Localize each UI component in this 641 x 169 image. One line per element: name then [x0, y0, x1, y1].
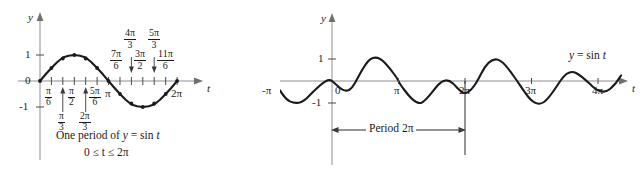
left-xtick-5pi3-den: 3: [148, 40, 160, 51]
left-graph-panel: y t 1 0 -1 π 6 π 2 5π 6 π 2π: [0, 0, 280, 169]
left-xtick-7pi6-num: 7π: [110, 49, 122, 61]
right-ytick-label-neg1: -1: [312, 97, 321, 108]
left-xtick-label-5pi-over-3: 5π 3: [148, 28, 160, 50]
left-xtick-4pi3-den: 3: [124, 40, 136, 51]
left-caption-line1: One period of y = sin t: [56, 129, 160, 141]
right-ytick-label-1: 1: [318, 53, 324, 64]
left-y-axis-arrowhead: [37, 12, 44, 21]
right-xtick-label-neg-pi: -π: [262, 85, 271, 96]
right-curve-function-label: y = sin t: [569, 50, 606, 62]
left-xtick-label-11pi-over-6: 11π 6: [157, 49, 174, 71]
right-xtick-label-4pi: 4π: [592, 85, 603, 96]
left-xtick-pi2-den: 2: [68, 98, 75, 108]
left-xtick-5pi6-den: 6: [89, 98, 101, 108]
right-y-axis-arrowhead: [329, 13, 336, 22]
left-xtick-11pi6-den: 6: [157, 61, 174, 72]
left-xtick-label-pi-over-2: π 2: [68, 87, 75, 108]
left-ytick-label-0: 0: [25, 75, 31, 86]
right-t-axis-label: t: [632, 83, 635, 94]
left-caption-line2: 0 ≤ t ≤ 2π: [84, 146, 129, 158]
right-xtick-label-3pi: 3π: [525, 85, 536, 96]
left-xtick-3pi2-num: 3π: [134, 49, 146, 61]
left-xtick-4pi3-num: 4π: [124, 28, 136, 40]
left-ytick-label-neg1: -1: [19, 101, 28, 112]
left-xtick-label-3pi-over-2: 3π 2: [134, 49, 146, 71]
left-xtick-5pi3-num: 5π: [148, 28, 160, 40]
right-xtick-label-2pi: 2π: [459, 85, 470, 96]
left-xtick-7pi6-den: 6: [110, 61, 122, 72]
right-period-annotation: Period 2π: [366, 123, 416, 135]
left-lower-leader-pi-over-3: [60, 87, 65, 112]
left-xtick-pi6-den: 6: [45, 98, 52, 108]
left-y-axis-label: y: [28, 12, 33, 23]
left-caption-eq: = sin: [128, 129, 157, 141]
left-t-axis-label: t: [207, 83, 210, 94]
right-y-axis-label: y: [321, 13, 326, 24]
left-xtick-label-pi-over-6: π 6: [45, 87, 52, 108]
left-xtick-11pi6-num: 11π: [157, 49, 174, 61]
right-curve-label-t: t: [603, 49, 606, 61]
right-xtick-label-0: 0: [335, 85, 341, 96]
right-xtick-label-pi: π: [394, 85, 400, 96]
left-graph-svg: [0, 0, 280, 169]
left-xtick-label-5pi-over-6: 5π 6: [89, 87, 101, 108]
right-curve-label-eq: = sin: [574, 49, 603, 61]
right-graph-panel: y t 1 -1 -π 0 π 2π 3π 4π y = sin t Perio…: [280, 0, 641, 169]
left-caption-t: t: [156, 129, 159, 141]
left-xtick-label-2pi: 2π: [171, 88, 182, 99]
left-xtick-3pi2-den: 2: [134, 61, 146, 72]
right-t-axis-arrowhead: [619, 78, 628, 85]
left-xtick-label-7pi-over-6: 7π 6: [110, 49, 122, 71]
left-lower-leader-2pi-over-3: [83, 87, 88, 112]
left-t-axis-arrowhead: [194, 78, 203, 85]
left-upper-leader-5pi-over-3: [152, 57, 157, 73]
left-ytick-label-1: 1: [25, 49, 31, 60]
sine-function-figure: y t 1 0 -1 π 6 π 2 5π 6 π 2π: [0, 0, 641, 169]
left-xtick-label-4pi-over-3: 4π 3: [124, 28, 136, 50]
left-caption-prefix: One period of: [56, 129, 123, 141]
left-xtick-label-pi: π: [105, 88, 111, 99]
